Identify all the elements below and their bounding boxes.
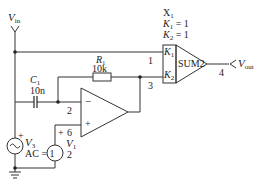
vout-label: Vout — [238, 58, 254, 71]
summer-port1: K1 — [164, 47, 174, 59]
opamp-noninv-sign: + — [85, 119, 91, 129]
vin-terminal-icon — [11, 26, 19, 32]
opamp-inv-sign: − — [85, 96, 91, 107]
summer-k2: K2 = 1 — [163, 30, 189, 42]
v1-plus: + — [58, 128, 64, 138]
r1-value: 10k — [92, 64, 107, 74]
circuit-diagram: Vin Vout X1 K1 = 1 K2 = 1 K1 K2 SUM2 R1 … — [0, 0, 254, 189]
summer-block-name: SUM2 — [178, 59, 205, 69]
node-2-label: 2 — [67, 106, 72, 116]
summer-port2: K2 — [164, 70, 174, 82]
vin-label: Vin — [8, 12, 20, 25]
c1-value: 10n — [30, 86, 45, 96]
v3-ac: AC = 1 — [25, 149, 55, 159]
node-1-label: 1 — [148, 56, 153, 66]
resistor-r1-icon — [93, 73, 111, 81]
node-3-label: 3 — [148, 81, 153, 91]
vout-terminal-icon — [230, 60, 236, 68]
v1-node: 2 — [67, 150, 72, 160]
v3-plus: + — [18, 131, 24, 141]
node-4-label: 4 — [219, 68, 224, 78]
